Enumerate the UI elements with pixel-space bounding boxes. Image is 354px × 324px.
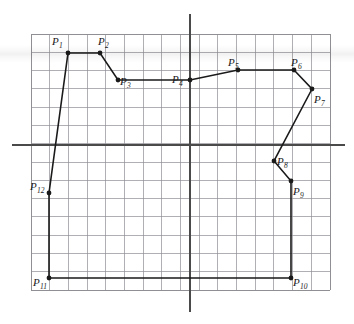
- point-label-p12: P12: [30, 181, 44, 192]
- vertex-dot-p8[interactable]: [272, 159, 277, 164]
- point-label-p5: P5: [228, 57, 238, 68]
- point-label-subscript: 4: [179, 79, 183, 88]
- point-label-letter: P: [98, 35, 105, 47]
- point-label-letter: P: [33, 276, 40, 288]
- point-label-letter: P: [293, 276, 300, 288]
- point-label-letter: P: [30, 180, 37, 192]
- point-label-p10: P10: [293, 277, 307, 288]
- point-label-p8: P8: [277, 156, 287, 167]
- point-label-subscript: 5: [235, 62, 239, 71]
- vertex-dot-p12[interactable]: [47, 191, 52, 196]
- point-label-p7: P7: [314, 94, 324, 105]
- point-label-p3: P3: [120, 76, 130, 87]
- point-label-subscript: 8: [284, 161, 288, 170]
- point-label-p2: P2: [98, 36, 108, 47]
- point-label-subscript: 1: [59, 41, 63, 50]
- point-label-letter: P: [172, 73, 179, 85]
- vertex-dot-p4[interactable]: [188, 78, 193, 83]
- point-label-subscript: 10: [300, 282, 308, 291]
- vertex-dot-p2[interactable]: [98, 51, 103, 56]
- vertex-dot-p7[interactable]: [310, 87, 315, 92]
- vertex-dot-p11[interactable]: [47, 276, 52, 281]
- coordinate-grid-figure: [0, 0, 354, 324]
- point-label-subscript: 6: [298, 62, 302, 71]
- point-label-letter: P: [120, 75, 127, 87]
- point-label-subscript: 11: [40, 282, 47, 291]
- point-label-p11: P11: [33, 277, 47, 288]
- point-label-letter: P: [52, 35, 59, 47]
- point-label-p6: P6: [291, 57, 301, 68]
- point-label-letter: P: [228, 56, 235, 68]
- point-label-letter: P: [291, 56, 298, 68]
- point-label-subscript: 9: [300, 191, 304, 200]
- point-label-letter: P: [293, 185, 300, 197]
- point-label-letter: P: [314, 93, 321, 105]
- vertex-dot-p6[interactable]: [292, 68, 297, 73]
- point-label-p4: P4: [172, 74, 182, 85]
- point-label-subscript: 2: [105, 41, 109, 50]
- point-label-letter: P: [277, 155, 284, 167]
- vertex-dot-p9[interactable]: [289, 179, 294, 184]
- point-label-subscript: 12: [37, 186, 45, 195]
- vertex-dot-p1[interactable]: [66, 51, 71, 56]
- point-label-p1: P1: [52, 36, 62, 47]
- point-label-subscript: 7: [321, 99, 325, 108]
- point-label-p9: P9: [293, 186, 303, 197]
- point-label-subscript: 3: [127, 81, 131, 90]
